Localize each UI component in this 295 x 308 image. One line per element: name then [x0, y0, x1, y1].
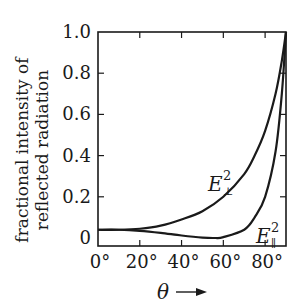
x-tick-label: 60°	[209, 251, 241, 272]
svg-text:2: 2	[223, 168, 231, 183]
arrow-head-icon	[196, 288, 207, 296]
y-tick-label: 0.2	[62, 186, 91, 207]
svg-text:E: E	[255, 224, 271, 248]
x-tick-label: 0°	[90, 251, 110, 272]
y-axis-label: fractional intensity of reflected radiat…	[2, 40, 62, 260]
curves	[98, 32, 286, 238]
svg-text:E: E	[207, 172, 223, 196]
curve-e-parallel	[98, 32, 286, 238]
x-tick-label: 20°	[126, 251, 158, 272]
label-e-perp: E2⊥	[207, 168, 233, 198]
y-tick-label: 0.6	[62, 103, 91, 124]
x-tick-label: 40°	[168, 251, 200, 272]
y-axis-label-line1: fractional intensity of	[12, 57, 32, 242]
y-tick-label: 1.0	[62, 21, 91, 42]
y-axis-label-line2: reflected radiation	[32, 57, 52, 242]
y-tick-label: 0.4	[62, 145, 91, 166]
svg-text:2: 2	[271, 220, 279, 235]
svg-text:∥: ∥	[271, 237, 276, 250]
x-axis-label: θ	[157, 280, 207, 304]
y-tick-label: 0	[80, 227, 91, 248]
svg-text:⊥: ⊥	[223, 185, 233, 198]
curve-e-perp	[98, 32, 286, 230]
y-tick-label: 0.8	[62, 62, 91, 83]
label-e-parallel: E2∥	[255, 220, 279, 250]
x-axis-theta: θ	[157, 280, 169, 304]
x-tick-label: 80°	[251, 251, 283, 272]
